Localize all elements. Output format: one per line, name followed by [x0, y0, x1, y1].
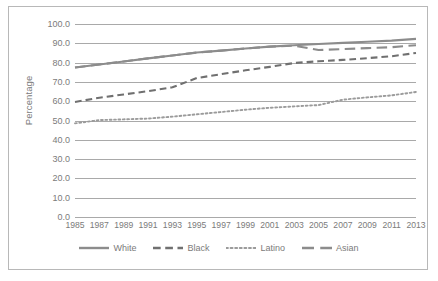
legend-label: Black [187, 243, 209, 253]
x-axis-tick-label: 1995 [187, 220, 206, 230]
x-axis-tick-label: 1999 [236, 220, 255, 230]
legend-label: Latino [260, 243, 285, 253]
x-axis-tick-label: 2011 [382, 220, 400, 230]
x-axis-tick-label: 1991 [139, 220, 158, 230]
x-axis-tick-label: 2013 [406, 220, 425, 230]
y-axis-tick-label: 50.0 [52, 116, 70, 126]
legend-label: Asian [336, 243, 359, 253]
x-axis-tick-label: 1993 [163, 220, 182, 230]
legend-item-latino[interactable]: Latino [226, 243, 285, 253]
x-axis-tick-label: 1985 [65, 220, 84, 230]
y-axis-tick-label: 70.0 [52, 77, 70, 87]
series-line-latino [75, 92, 416, 123]
chart-container: Percentage 100.090.080.070.060.050.040.0… [8, 6, 428, 270]
chart-legend: WhiteBlackLatinoAsian [9, 243, 429, 253]
plot-area: 100.090.080.070.060.050.040.030.020.010.… [75, 24, 416, 217]
x-axis-tick-label: 1987 [90, 220, 109, 230]
x-axis-tick-label: 1997 [212, 220, 231, 230]
y-axis-tick-label: 30.0 [52, 154, 70, 164]
y-axis-tick-label: 10.0 [52, 193, 70, 203]
y-axis-title: Percentage [23, 56, 34, 146]
series-layer [75, 24, 416, 217]
legend-swatch-black-icon [153, 244, 183, 252]
y-axis-tick-label: 40.0 [52, 135, 70, 145]
gridline [75, 217, 416, 218]
legend-swatch-asian-icon [302, 244, 332, 252]
y-axis-tick-label: 60.0 [52, 96, 70, 106]
legend-item-asian[interactable]: Asian [302, 243, 359, 253]
x-axis: 1985198719891991199319951997199920012003… [75, 220, 416, 236]
y-axis-tick-label: 100.0 [47, 19, 70, 29]
x-axis-tick-label: 2001 [260, 220, 279, 230]
y-axis-tick-label: 90.0 [52, 38, 70, 48]
y-axis-tick-label: 80.0 [52, 58, 70, 68]
x-axis-tick-label: 2003 [285, 220, 304, 230]
legend-label: White [113, 243, 136, 253]
x-axis-tick-label: 2005 [309, 220, 328, 230]
y-axis-tick-label: 20.0 [52, 173, 70, 183]
legend-swatch-white-icon [79, 244, 109, 252]
x-axis-tick-label: 2007 [333, 220, 352, 230]
x-axis-tick-label: 1989 [114, 220, 133, 230]
legend-swatch-latino-icon [226, 244, 256, 252]
legend-item-black[interactable]: Black [153, 243, 209, 253]
legend-item-white[interactable]: White [79, 243, 136, 253]
x-axis-tick-label: 2009 [358, 220, 377, 230]
series-line-white [75, 39, 416, 68]
